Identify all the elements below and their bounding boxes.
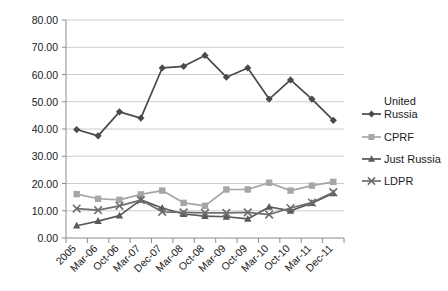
y-axis-tick-label: 60.00 [32, 69, 58, 81]
y-axis-tick-label: 20.00 [32, 178, 58, 190]
y-axis-tick-label: 70.00 [32, 41, 58, 53]
legend-label-united-russia-line1: United [384, 95, 416, 107]
legend-label-united-russia: Russia [384, 108, 419, 120]
data-point-marker-square [287, 187, 293, 193]
y-axis-tick-label: 50.00 [32, 96, 58, 108]
y-axis-tick-labels: 0.0010.0020.0030.0040.0050.0060.0070.008… [32, 14, 58, 244]
data-point-marker-square [309, 182, 315, 188]
data-point-marker-square [202, 203, 208, 209]
y-axis-tick-label: 80.00 [32, 14, 58, 26]
y-axis-tick-label: 10.00 [32, 205, 58, 217]
data-point-marker-square [368, 134, 374, 140]
data-point-marker-square [266, 179, 272, 185]
data-point-marker-square [180, 200, 186, 206]
y-axis-tick-label: 0.00 [38, 232, 59, 244]
data-point-marker-square [223, 186, 229, 192]
line-chart-figure: 0.0010.0020.0030.0040.0050.0060.0070.008… [0, 0, 448, 291]
data-point-marker-square [159, 187, 165, 193]
chart-canvas: 0.0010.0020.0030.0040.0050.0060.0070.008… [0, 0, 448, 291]
legend-label-cprf: CPRF [384, 131, 414, 143]
data-point-marker-square [330, 179, 336, 185]
legend-label-ldpr: LDPR [384, 175, 413, 187]
data-point-marker-square [95, 196, 101, 202]
y-axis-tick-label: 30.00 [32, 150, 58, 162]
y-axis-tick-label: 40.00 [32, 123, 58, 135]
legend-label-just-russia: Just Russia [384, 153, 442, 165]
data-point-marker-square [116, 197, 122, 203]
data-point-marker-square [245, 186, 251, 192]
data-point-marker-square [73, 191, 79, 197]
